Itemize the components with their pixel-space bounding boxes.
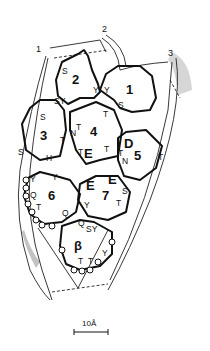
svg-text:T: T <box>36 202 41 212</box>
svg-text:N: N <box>122 156 128 166</box>
envelope-right <box>110 62 172 280</box>
envelope-arc-2b <box>106 35 126 66</box>
svg-text:T: T <box>88 256 93 266</box>
svg-text:Q: Q <box>78 218 85 228</box>
svg-text:T: T <box>78 147 83 157</box>
dashed-bottom <box>52 284 108 292</box>
svg-text:Y: Y <box>102 248 108 258</box>
svg-text:T: T <box>103 109 108 119</box>
svg-text:SY: SY <box>86 224 98 234</box>
scale-bar <box>74 329 108 335</box>
svg-text:N: N <box>70 128 76 138</box>
ref-line-3: 3 <box>168 48 173 58</box>
svg-text:S: S <box>122 186 128 196</box>
svg-text:T: T <box>60 135 65 145</box>
svg-text:T: T <box>104 144 109 154</box>
svg-text:Y: Y <box>30 174 36 184</box>
domain-label-3: 3 <box>40 128 47 143</box>
svg-text:Y: Y <box>93 85 99 95</box>
svg-text:E: E <box>108 172 117 187</box>
svg-text:Q: Q <box>30 190 37 200</box>
domain-label-4: 4 <box>90 124 98 139</box>
envelope-top <box>50 40 106 52</box>
domain-label-2: 2 <box>72 72 79 87</box>
svg-text:D: D <box>124 136 133 151</box>
envelope-right-outer <box>108 58 178 290</box>
domain-label-1: 1 <box>126 82 133 97</box>
svg-text:Y: Y <box>104 85 110 95</box>
ref-line-2: 2 <box>102 24 107 34</box>
domain-label-beta: β <box>74 238 82 253</box>
domain-label-5: 5 <box>134 148 141 163</box>
svg-text:S: S <box>18 147 24 157</box>
svg-text:Y: Y <box>52 172 58 182</box>
svg-text:E: E <box>84 146 93 161</box>
svg-text:T: T <box>76 122 81 132</box>
protein-domain-diagram: 1 2 3 2 1 3 4 5 6 7 β S SY Y Y S S S T H… <box>0 0 210 351</box>
svg-text:T: T <box>78 256 83 266</box>
svg-text:S: S <box>118 100 124 110</box>
domain-label-6: 6 <box>48 188 55 203</box>
svg-text:E: E <box>86 178 95 193</box>
domain-label-7: 7 <box>102 188 109 203</box>
svg-text:SY: SY <box>54 96 66 106</box>
shaded-region-right <box>168 52 192 95</box>
svg-text:Y: Y <box>84 200 90 210</box>
ref-line-1: 1 <box>36 44 41 54</box>
svg-text:H: H <box>46 153 52 163</box>
svg-text:T: T <box>116 198 121 208</box>
scale-bar-label: 10Å <box>82 319 97 328</box>
svg-text:S: S <box>62 66 68 76</box>
beta-triangle <box>38 228 108 288</box>
svg-text:T: T <box>158 152 163 162</box>
svg-text:Q: Q <box>62 208 69 218</box>
svg-text:S: S <box>40 112 46 122</box>
